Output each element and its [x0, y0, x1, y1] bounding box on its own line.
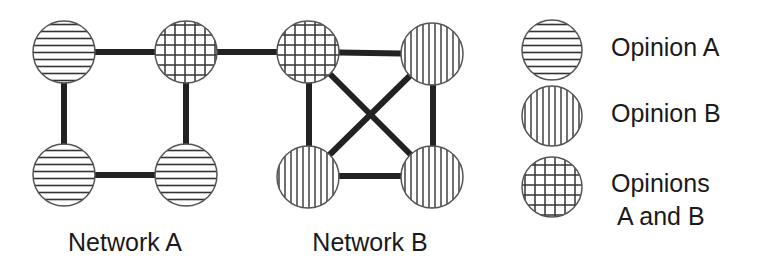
legend-item-opinions-ab: Opinions A and B: [522, 157, 710, 230]
legend-label-opinions-line2: A and B: [617, 202, 705, 230]
node-a4-opinion-a: [155, 144, 217, 206]
node-a3-opinion-a: [33, 144, 95, 206]
network-a: Network A: [33, 21, 217, 256]
edges: [64, 52, 433, 176]
legend-item-opinion-a: Opinion A: [522, 20, 720, 80]
node-b1-opinions-ab: [277, 21, 339, 83]
opinion-network-diagram: Network A Network B Opinion A: [0, 0, 782, 272]
node-b2-opinion-b: [401, 23, 463, 85]
network-b-label: Network B: [312, 228, 427, 256]
legend-label-opinion-a: Opinion A: [611, 33, 720, 61]
node-a2-opinions-ab: [155, 21, 217, 83]
node-b3-opinion-b: [277, 146, 339, 208]
node-b4-opinion-b: [401, 146, 463, 208]
network-a-label: Network A: [68, 228, 182, 256]
legend-item-opinion-b: Opinion B: [522, 86, 721, 146]
legend-label-opinions-line1: Opinions: [611, 169, 710, 197]
legend-label-opinion-b: Opinion B: [611, 99, 721, 127]
legend: Opinion A Opinion B Opinions A and B: [522, 20, 721, 230]
node-a1-opinion-a: [33, 21, 95, 83]
